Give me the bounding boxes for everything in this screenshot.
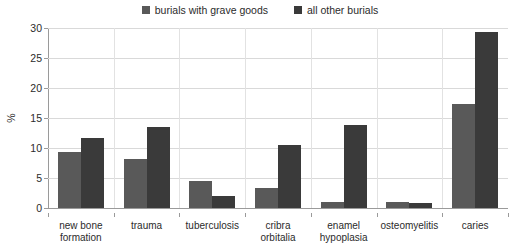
bar [124,159,147,208]
y-tick-label: 5 [2,173,42,183]
bar [409,203,432,208]
bar [278,145,301,208]
x-tick-label-line: tuberculosis [179,220,245,232]
bar-group [48,28,114,208]
legend-label-series-b: all other burials [307,4,378,16]
bar [321,202,344,208]
x-tick-label: cribraorbitalia [245,220,311,243]
bar [452,104,475,208]
x-axis-labels: new boneformationtraumatuberculosiscribr… [48,213,508,252]
x-tick-label: trauma [114,220,180,232]
x-tick-label-line: orbitalia [245,232,311,244]
bar-group [311,28,377,208]
y-axis-labels: 30 25 20 15 10 5 0 [0,0,42,252]
x-tick-mark [442,213,443,217]
y-tick-label: 15 [2,113,42,123]
bar-chart: burials with grave goods all other buria… [0,0,520,252]
x-tick-mark [508,213,509,217]
bar [147,127,170,208]
x-tick-label-line: osteomyelitis [377,220,443,232]
bar [58,152,81,208]
x-tick-mark [179,213,180,217]
x-tick-mark [48,213,49,217]
y-tick-label: 20 [2,83,42,93]
x-tick-label: caries [442,220,508,232]
bar [189,181,212,208]
legend-swatch-series-b [294,6,302,14]
x-tick-label-line: trauma [114,220,180,232]
x-tick-label: enamelhypoplasia [311,220,377,243]
chart-legend: burials with grave goods all other buria… [0,4,520,16]
legend-entry-series-a: burials with grave goods [142,4,268,16]
y-tick-label: 10 [2,143,42,153]
bar-group [179,28,245,208]
x-axis-line [48,208,508,209]
x-tick-label-line: formation [48,232,114,244]
x-tick-label-line: caries [442,220,508,232]
bar [344,125,367,208]
x-tick-label-line: enamel [311,220,377,232]
y-tick-label: 25 [2,53,42,63]
bar-group [245,28,311,208]
bars-layer [48,28,508,208]
x-tick-label-line: new bone [48,220,114,232]
plot-area [48,28,508,208]
bar [475,32,498,208]
x-tick-mark [311,213,312,217]
bar-group [114,28,180,208]
x-tick-label: tuberculosis [179,220,245,232]
legend-swatch-series-a [142,6,150,14]
bar [212,196,235,208]
x-tick-label: osteomyelitis [377,220,443,232]
x-tick-mark [377,213,378,217]
bar [81,138,104,208]
bar-group [377,28,443,208]
x-tick-label-line: hypoplasia [311,232,377,244]
x-tick-mark [245,213,246,217]
bar [255,188,278,208]
legend-entry-series-b: all other burials [294,4,378,16]
legend-label-series-a: burials with grave goods [155,4,268,16]
y-tick-label: 0 [2,203,42,213]
y-tick-label: 30 [2,23,42,33]
x-tick-label: new boneformation [48,220,114,243]
x-tick-mark [114,213,115,217]
bar-group [442,28,508,208]
x-tick-label-line: cribra [245,220,311,232]
bar [386,202,409,208]
